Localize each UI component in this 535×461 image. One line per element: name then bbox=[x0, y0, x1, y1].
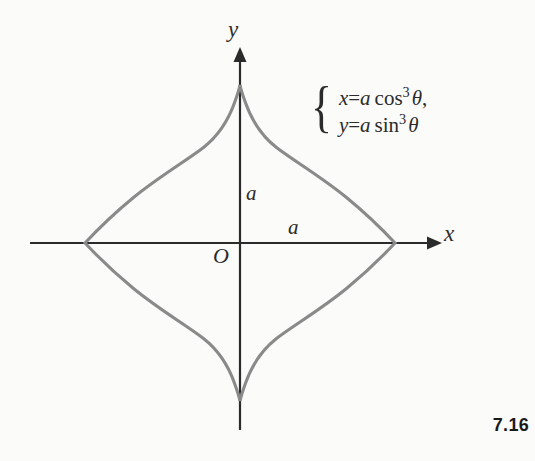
equation-x-operator: = bbox=[348, 86, 360, 110]
equation-y-function: sin bbox=[375, 113, 400, 137]
equation-x-variable: θ bbox=[412, 86, 422, 110]
astroid-figure: y x O a a { x=acos3θ, y=asin3θ 7.16 bbox=[0, 0, 535, 461]
x-axis-arrowhead-icon bbox=[427, 237, 442, 250]
x-extent-label-a: a bbox=[288, 217, 299, 238]
equation-brace: { bbox=[311, 81, 332, 136]
equation-lines: x=acos3θ, y=asin3θ bbox=[339, 85, 427, 136]
equation-line-y: y=asin3θ bbox=[339, 114, 427, 136]
y-axis-label: y bbox=[228, 18, 238, 41]
equation-y-lhs: y bbox=[339, 113, 348, 137]
equation-x-function: cos bbox=[375, 86, 403, 110]
equation-x-lhs: x bbox=[339, 86, 348, 110]
equation-y-variable: θ bbox=[408, 113, 418, 137]
equation-y-operator: = bbox=[348, 113, 360, 137]
equation-x-trailing: , bbox=[422, 86, 427, 110]
equation-y-coefficient: a bbox=[360, 113, 371, 137]
parametric-equation-block: { x=acos3θ, y=asin3θ bbox=[311, 85, 427, 136]
equation-x-exponent: 3 bbox=[403, 84, 410, 100]
plot-canvas bbox=[0, 0, 535, 461]
y-axis-arrowhead-icon bbox=[234, 47, 247, 62]
y-extent-label-a: a bbox=[246, 183, 257, 204]
x-axis-label: x bbox=[444, 222, 454, 245]
equation-line-x: x=acos3θ, bbox=[339, 87, 427, 109]
origin-label: O bbox=[213, 245, 229, 267]
equation-y-exponent: 3 bbox=[399, 111, 406, 127]
figure-number: 7.16 bbox=[493, 415, 529, 436]
x-axis bbox=[30, 237, 442, 250]
equation-x-coefficient: a bbox=[360, 86, 371, 110]
